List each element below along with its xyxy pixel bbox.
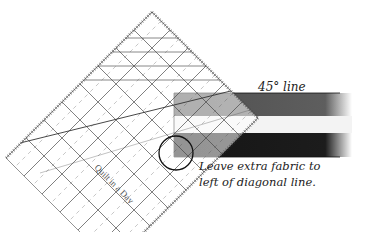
angle-line-label: 45° line [258,80,306,94]
instruction-label-line2: left of diagonal line. [199,175,316,189]
instruction-label-line1: Leave extra fabric to [199,159,320,173]
illustration: Quilt in a Day 45° line Leave extra fabr… [0,0,370,232]
ruler-diagram: Quilt in a Day [0,0,370,232]
